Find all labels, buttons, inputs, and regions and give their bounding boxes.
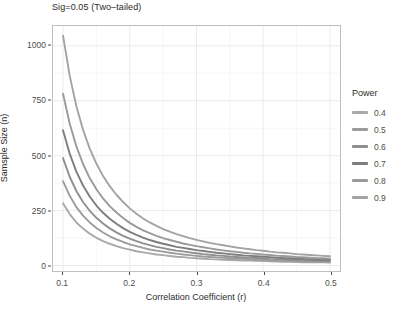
x-tick-mark <box>197 272 198 275</box>
legend-key-line <box>352 162 368 165</box>
x-tick-label: 0.3 <box>191 278 203 288</box>
legend-item[interactable]: 0.6 <box>352 138 406 155</box>
legend-item-label: 0.4 <box>374 108 386 118</box>
x-tick-label: 0.4 <box>258 278 270 288</box>
legend-item[interactable]: 0.7 <box>352 155 406 172</box>
legend-key-line <box>352 111 368 114</box>
legend-item[interactable]: 0.8 <box>352 172 406 189</box>
y-tick-label: 250 <box>32 206 46 216</box>
x-tick-label: 0.2 <box>123 278 135 288</box>
legend-key-line <box>352 179 368 182</box>
y-tick-label: 0 <box>41 261 46 271</box>
legend-item[interactable]: 0.5 <box>352 121 406 138</box>
legend-item-label: 0.9 <box>374 193 386 203</box>
x-tick-mark <box>331 272 332 275</box>
plot-panel <box>52 25 341 272</box>
legend-item-label: 0.6 <box>374 142 386 152</box>
x-tick-mark <box>264 272 265 275</box>
series-lines <box>53 26 340 271</box>
legend-item[interactable]: 0.9 <box>352 189 406 206</box>
legend-key-line <box>352 196 368 199</box>
legend: Power 0.40.50.60.70.80.9 <box>352 88 406 206</box>
legend-item-label: 0.7 <box>374 159 386 169</box>
chart-root: Sig=0.05 (Two–tailed) 02505007501000 0.1… <box>0 0 406 319</box>
y-tick-mark <box>48 155 51 156</box>
y-axis-title: Samsple Size (n) <box>0 114 9 183</box>
y-tick-mark <box>48 44 51 45</box>
legend-key-line <box>352 128 368 131</box>
x-tick-mark <box>129 272 130 275</box>
legend-items: 0.40.50.60.70.80.9 <box>352 104 406 206</box>
x-tick-mark <box>62 272 63 275</box>
x-tick-label: 0.1 <box>56 278 68 288</box>
y-tick-mark <box>48 100 51 101</box>
legend-title: Power <box>352 88 406 98</box>
y-tick-label: 750 <box>32 95 46 105</box>
y-tick-mark <box>48 211 51 212</box>
legend-item[interactable]: 0.4 <box>352 104 406 121</box>
legend-item-label: 0.8 <box>374 176 386 186</box>
legend-key-line <box>352 145 368 148</box>
y-tick-label: 500 <box>32 151 46 161</box>
legend-item-label: 0.5 <box>374 125 386 135</box>
y-tick-mark <box>48 266 51 267</box>
x-tick-label: 0.5 <box>325 278 337 288</box>
chart-subtitle: Sig=0.05 (Two–tailed) <box>52 2 141 12</box>
y-tick-label: 1000 <box>27 40 46 50</box>
x-axis-title: Correlation Coefficient (r) <box>146 292 246 302</box>
